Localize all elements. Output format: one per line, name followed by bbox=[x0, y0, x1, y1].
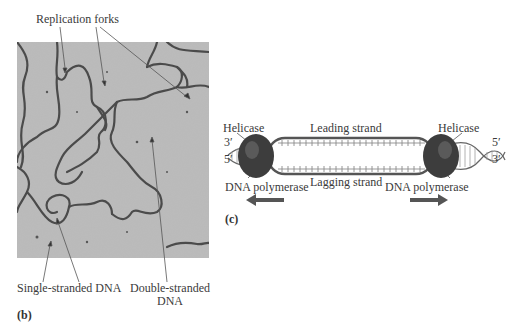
replication-forks-label: Replication forks bbox=[36, 12, 119, 27]
lagging-strand-label: Lagging strand bbox=[310, 175, 382, 190]
helicase-left-label: Helicase bbox=[223, 121, 264, 136]
right-5prime-label: 5′ bbox=[492, 135, 501, 150]
leading-strand-label: Leading strand bbox=[310, 121, 382, 136]
double-stranded-dna-label-2: DNA bbox=[157, 294, 183, 309]
polymerase-right-label: DNA polymerase bbox=[385, 180, 469, 195]
right-3prime-label: 3′ bbox=[492, 152, 501, 167]
polymerase-left-label: DNA polymerase bbox=[225, 180, 309, 195]
replication-diagram bbox=[228, 134, 505, 206]
panel-c-label: (c) bbox=[225, 212, 238, 227]
left-5prime-label: 5′ bbox=[224, 152, 233, 167]
annotation-leaders bbox=[0, 0, 511, 322]
direction-arrows bbox=[246, 194, 448, 206]
helicase-right-label: Helicase bbox=[438, 121, 479, 136]
single-stranded-dna-label: Single-stranded DNA bbox=[17, 281, 121, 296]
left-3prime-label: 3′ bbox=[224, 135, 233, 150]
panel-b-label: (b) bbox=[17, 308, 32, 322]
